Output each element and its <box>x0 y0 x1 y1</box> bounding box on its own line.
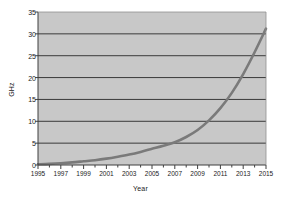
chart-container: GHz 05101520253035 199519971999200120032… <box>0 0 281 200</box>
plot-area <box>0 0 281 200</box>
plot-background <box>38 12 266 165</box>
x-axis-ticks <box>38 165 266 169</box>
x-axis-title: Year <box>0 185 281 192</box>
